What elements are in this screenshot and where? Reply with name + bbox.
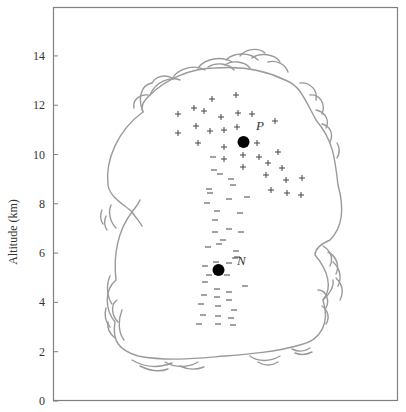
plot-frame (54, 8, 398, 401)
positive-charge-center-dot (238, 136, 250, 148)
y-axis-title: Altitude (km) (6, 199, 20, 265)
tick-label-10: 10 (33, 148, 45, 162)
tick-label-6: 6 (39, 246, 45, 260)
tick-label-14: 14 (33, 49, 45, 63)
tick-label-12: 12 (33, 98, 45, 112)
tick-label-4: 4 (39, 295, 45, 309)
cloud-outline (101, 49, 342, 370)
negative-region-label: N (236, 253, 247, 268)
thundercloud-charge-diagram: 0 2 4 6 8 10 12 14 Altitude (km) (0, 0, 406, 412)
negative-charge-center-dot (213, 264, 225, 276)
tick-label-2: 2 (39, 345, 45, 359)
tick-label-0: 0 (39, 394, 45, 408)
positive-region-label: P (255, 118, 264, 133)
negative-charges (196, 157, 250, 325)
tick-label-8: 8 (39, 197, 45, 211)
y-axis-tick-labels: 0 2 4 6 8 10 12 14 (33, 49, 45, 408)
